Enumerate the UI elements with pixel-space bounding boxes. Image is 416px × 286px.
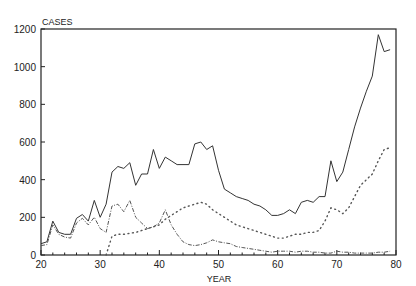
y-tick-label: 600: [19, 137, 36, 148]
x-tick-label: 80: [390, 259, 402, 270]
y-axis-title: CASES: [42, 17, 73, 27]
y-tick-label: 200: [19, 212, 36, 223]
y-axis: 020040060080010001200: [14, 24, 45, 261]
series-line-series-3: [106, 148, 390, 255]
data-series: [41, 35, 390, 255]
x-tick-label: 50: [213, 259, 225, 270]
x-axis-title: YEAR: [207, 274, 232, 284]
x-tick-label: 60: [272, 259, 284, 270]
plot-frame: [41, 29, 396, 255]
y-tick-label: 1200: [14, 24, 37, 35]
y-tick-label: 800: [19, 99, 36, 110]
x-axis: 20304050607080: [35, 250, 402, 270]
y-tick-label: 400: [19, 175, 36, 186]
line-chart: 020040060080010001200 20304050607080 CAS…: [0, 0, 416, 286]
x-tick-label: 40: [154, 259, 166, 270]
y-tick-label: 1000: [14, 62, 37, 73]
x-tick-label: 70: [331, 259, 343, 270]
x-tick-label: 20: [35, 259, 47, 270]
series-line-series-2: [41, 200, 390, 253]
x-tick-label: 30: [95, 259, 107, 270]
